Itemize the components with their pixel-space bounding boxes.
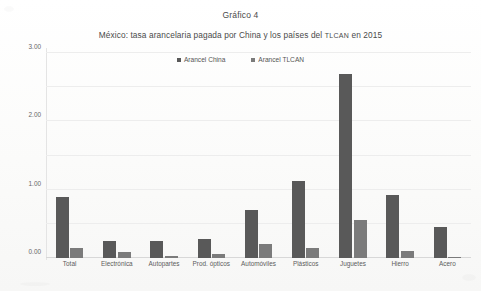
bar-china[interactable]	[56, 197, 69, 258]
bar-china[interactable]	[198, 239, 211, 258]
paper-speckle	[20, 282, 50, 286]
y-axis-tick-label: 0.00	[29, 248, 41, 255]
bar-group	[282, 53, 329, 258]
bar-tlcan[interactable]	[401, 251, 414, 258]
bar-group	[424, 53, 471, 258]
x-axis-category-label: Hierro	[377, 260, 424, 267]
chart-subtitle-prefix: México: tasa arancelaria pagada por Chin…	[99, 30, 325, 40]
chart-subtitle: México: tasa arancelaria pagada por Chin…	[0, 30, 481, 40]
y-axis-tick-label: 1.00	[29, 179, 41, 186]
bar-group	[235, 53, 282, 258]
bar-group	[329, 53, 376, 258]
plot-area: 0.001.002.003.004.005.006.00	[46, 53, 471, 258]
x-axis-category-label: Total	[46, 260, 93, 267]
bar-group	[93, 53, 140, 258]
x-axis-category-label: Automóviles	[235, 260, 282, 267]
chart-subtitle-suffix: en 2015	[349, 30, 382, 40]
x-axis-category-label: Acero	[424, 260, 471, 267]
bar-tlcan[interactable]	[306, 248, 319, 258]
bar-tlcan[interactable]	[118, 252, 131, 258]
x-axis-category-label: Juguetes	[329, 260, 376, 267]
paper-speckle	[462, 274, 476, 281]
bar-tlcan[interactable]	[259, 244, 272, 258]
y-axis-tick-label: 2.00	[29, 111, 41, 118]
y-axis-tick-label: 3.00	[29, 43, 41, 50]
bar-china[interactable]	[103, 241, 116, 258]
bar-tlcan[interactable]	[354, 220, 367, 258]
x-axis-labels: TotalElectrónicaAutopartesProd. ópticosA…	[46, 260, 471, 267]
chart-figure: Gráfico 4 México: tasa arancelaria pagad…	[0, 0, 481, 291]
x-axis-category-label: Prod. ópticos	[188, 260, 235, 267]
bar-tlcan[interactable]	[165, 256, 178, 258]
chart-subtitle-acronym: TLCAN	[325, 32, 349, 39]
x-axis-category-label: Autopartes	[140, 260, 187, 267]
bar-group	[46, 53, 93, 258]
bar-groups	[46, 53, 471, 258]
x-axis-category-label: Plásticos	[282, 260, 329, 267]
bar-group	[188, 53, 235, 258]
bar-china[interactable]	[386, 195, 399, 258]
bar-tlcan[interactable]	[448, 257, 461, 258]
bar-china[interactable]	[339, 74, 352, 258]
chart-title: Gráfico 4	[0, 10, 481, 20]
bar-group	[377, 53, 424, 258]
x-axis-category-label: Electrónica	[93, 260, 140, 267]
bar-china[interactable]	[245, 210, 258, 258]
bar-tlcan[interactable]	[212, 254, 225, 258]
bar-china[interactable]	[150, 241, 163, 258]
bar-china[interactable]	[292, 181, 305, 258]
bar-china[interactable]	[434, 227, 447, 258]
bar-group	[140, 53, 187, 258]
bar-tlcan[interactable]	[70, 248, 83, 258]
